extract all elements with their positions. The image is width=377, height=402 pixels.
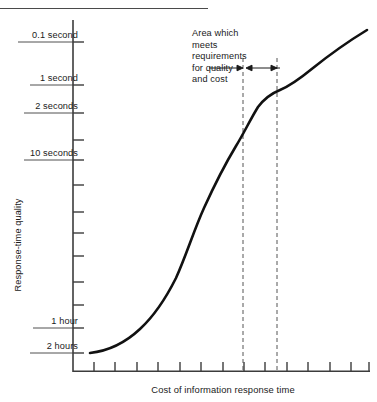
y-tick-label-0: 0.1 second	[18, 30, 78, 40]
y-label-leader-rules	[18, 42, 73, 353]
chart-figure: 0.1 second 1 second 2 seconds 10 seconds…	[0, 0, 377, 402]
y-tick-label-1: 1 second	[30, 73, 78, 83]
y-tick-label-11: 1 hour	[33, 316, 78, 326]
y-axis-ticks	[73, 42, 84, 353]
requirement-region-annotation: Area which meets requirements for qualit…	[192, 28, 247, 86]
x-axis-ticks	[94, 362, 369, 371]
y-tick-label-12: 2 hours	[30, 341, 78, 351]
x-axis-title: Cost of information response time	[73, 384, 373, 395]
y-tick-label-2: 2 seconds	[24, 101, 78, 111]
y-tick-label-4: 10 seconds	[24, 148, 78, 158]
y-axis-title: Response-time quality	[13, 185, 23, 305]
